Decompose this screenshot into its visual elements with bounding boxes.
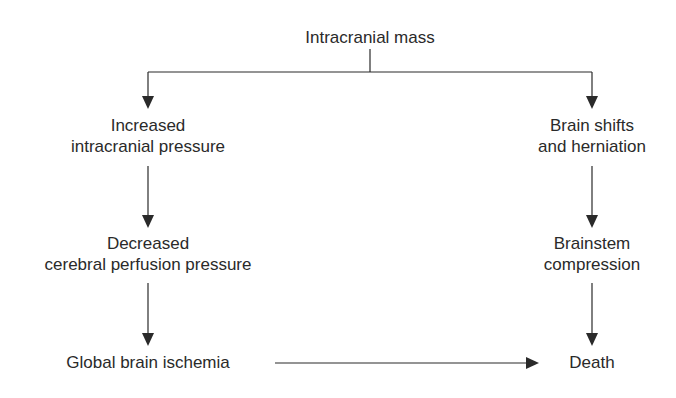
node-label: Increased <box>71 115 225 136</box>
node-brainstem-compression: Brainstem compression <box>544 233 640 275</box>
node-label: Global brain ischemia <box>66 352 229 373</box>
arrowhead-icon <box>142 215 154 228</box>
node-global-brain-ischemia: Global brain ischemia <box>66 352 229 373</box>
node-label: Brain shifts <box>538 115 646 136</box>
node-label: Death <box>569 352 614 373</box>
arrowhead-icon <box>586 96 598 109</box>
node-intracranial-mass: Intracranial mass <box>305 27 434 48</box>
connector-lines <box>0 0 676 398</box>
node-decreased-cpp: Decreased cerebral perfusion pressure <box>45 233 252 275</box>
node-label: and herniation <box>538 136 646 157</box>
arrowhead-icon <box>142 333 154 346</box>
node-increased-icp: Increased intracranial pressure <box>71 115 225 157</box>
node-label: Brainstem <box>544 233 640 254</box>
node-brain-shifts: Brain shifts and herniation <box>538 115 646 157</box>
arrowhead-icon <box>586 215 598 228</box>
node-label: Decreased <box>45 233 252 254</box>
arrowhead-icon <box>586 333 598 346</box>
node-label: Intracranial mass <box>305 27 434 48</box>
arrowhead-icon <box>142 96 154 109</box>
node-death: Death <box>569 352 614 373</box>
arrowhead-icon <box>526 357 539 369</box>
node-label: intracranial pressure <box>71 136 225 157</box>
node-label: compression <box>544 254 640 275</box>
node-label: cerebral perfusion pressure <box>45 254 252 275</box>
